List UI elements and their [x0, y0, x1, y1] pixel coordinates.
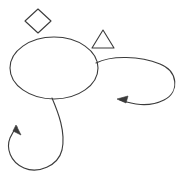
right-loop-arrowhead-icon [117, 96, 128, 103]
triangle-shape [92, 30, 114, 48]
diamond-shape [25, 9, 51, 33]
right-loop-arrow-path [96, 57, 175, 104]
bottom-loop-arrow-path [9, 98, 64, 170]
sketch-svg [0, 0, 188, 178]
ellipse-shape [10, 37, 98, 99]
drawing-canvas [0, 0, 188, 178]
bottom-loop-arrowhead-icon [13, 125, 21, 135]
